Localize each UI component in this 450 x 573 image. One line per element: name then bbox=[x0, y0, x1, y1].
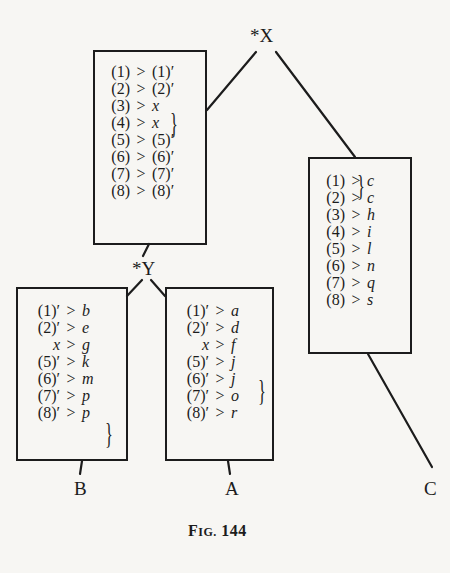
greater-than-symbol: > bbox=[209, 319, 231, 336]
greater-than-symbol: > bbox=[130, 114, 152, 131]
relation-row: (1)′>b bbox=[22, 302, 90, 319]
node-a-label: A bbox=[225, 479, 239, 499]
relation-lhs: (3) bbox=[100, 97, 130, 114]
relation-row: (1)>(1)′ bbox=[100, 63, 174, 80]
edge-box-b-to-b bbox=[80, 461, 82, 474]
relation-rhs: l bbox=[367, 240, 371, 257]
relation-rhs: f bbox=[231, 336, 235, 353]
brace-b-rows-7-8: } bbox=[105, 418, 113, 448]
relation-row: x>f bbox=[171, 336, 235, 353]
relation-lhs: (6) bbox=[100, 148, 130, 165]
relation-lhs: (6)′ bbox=[171, 370, 209, 387]
relation-rhs: j bbox=[231, 353, 235, 370]
greater-than-symbol: > bbox=[130, 131, 152, 148]
greater-than-symbol: > bbox=[209, 353, 231, 370]
relation-rhs: i bbox=[367, 223, 371, 240]
greater-than-symbol: > bbox=[60, 336, 82, 353]
relation-rhs: g bbox=[82, 336, 90, 353]
relation-row: (5)>l bbox=[315, 240, 371, 257]
relation-rhs: e bbox=[82, 319, 89, 336]
caption-number: 144 bbox=[221, 522, 247, 539]
brace-c-rows-1-2: } bbox=[357, 170, 365, 200]
greater-than-symbol: > bbox=[130, 182, 152, 199]
relation-lhs: (5) bbox=[100, 131, 130, 148]
relation-rhs: d bbox=[231, 319, 239, 336]
node-b-label: B bbox=[74, 479, 87, 499]
relation-lhs: (8) bbox=[315, 291, 345, 308]
relation-rhs: (1)′ bbox=[152, 63, 174, 80]
relation-row: (2)>(2)′ bbox=[100, 80, 174, 97]
greater-than-symbol: > bbox=[60, 353, 82, 370]
greater-than-symbol: > bbox=[209, 302, 231, 319]
caption-smallcaps: IG. bbox=[198, 525, 217, 539]
relation-lhs: (4) bbox=[315, 223, 345, 240]
relation-row: (5)′>k bbox=[22, 353, 89, 370]
relation-row: (2)>c bbox=[315, 189, 374, 206]
greater-than-symbol: > bbox=[209, 370, 231, 387]
greater-than-symbol: > bbox=[130, 165, 152, 182]
relation-lhs: (7)′ bbox=[171, 387, 209, 404]
edge-box-a-to-a bbox=[228, 461, 230, 474]
relation-lhs: (5) bbox=[315, 240, 345, 257]
greater-than-symbol: > bbox=[345, 223, 367, 240]
relation-rhs: b bbox=[82, 302, 90, 319]
relation-rhs: (2)′ bbox=[152, 80, 174, 97]
relation-row: (6)>(6)′ bbox=[100, 148, 174, 165]
edge-y-to-box-b bbox=[127, 280, 142, 296]
relation-row: (5)>(5)′ bbox=[100, 131, 174, 148]
relation-row: (8)′>r bbox=[171, 404, 237, 421]
relation-row: (2)′>d bbox=[171, 319, 239, 336]
relation-row: (6)′>j bbox=[171, 370, 235, 387]
relation-rhs: j bbox=[231, 370, 235, 387]
relation-row: (6)′>m bbox=[22, 370, 94, 387]
greater-than-symbol: > bbox=[130, 80, 152, 97]
relation-row: (7)>(7)′ bbox=[100, 165, 174, 182]
relation-row: x>g bbox=[22, 336, 90, 353]
relation-lhs: (8)′ bbox=[22, 404, 60, 421]
brace-top-rows-3-4: } bbox=[170, 108, 178, 138]
relation-rhs: r bbox=[231, 404, 237, 421]
edge-top-box-to-y bbox=[143, 244, 149, 256]
relation-lhs: (2) bbox=[100, 80, 130, 97]
relation-lhs: (1)′ bbox=[171, 302, 209, 319]
greater-than-symbol: > bbox=[345, 274, 367, 291]
greater-than-symbol: > bbox=[209, 387, 231, 404]
relation-lhs: (7) bbox=[100, 165, 130, 182]
relation-row: (1)′>a bbox=[171, 302, 239, 319]
relation-row: (8)′>p bbox=[22, 404, 90, 421]
relation-row: (7)′>o bbox=[171, 387, 239, 404]
relation-rhs: x bbox=[152, 97, 159, 114]
greater-than-symbol: > bbox=[60, 387, 82, 404]
relation-lhs: (1)′ bbox=[22, 302, 60, 319]
relation-rhs: s bbox=[367, 291, 373, 308]
relation-rhs: (6)′ bbox=[152, 148, 174, 165]
relation-row: (7)′>p bbox=[22, 387, 90, 404]
edge-box-c-to-c bbox=[368, 354, 432, 467]
relation-lhs: (1) bbox=[100, 63, 130, 80]
relation-lhs: x bbox=[171, 336, 209, 353]
relation-lhs: (7)′ bbox=[22, 387, 60, 404]
greater-than-symbol: > bbox=[60, 404, 82, 421]
greater-than-symbol: > bbox=[209, 404, 231, 421]
figure-caption: FIG. 144 bbox=[188, 522, 247, 540]
greater-than-symbol: > bbox=[345, 240, 367, 257]
relation-rhs: k bbox=[82, 353, 89, 370]
edge-y-to-box-a bbox=[151, 280, 165, 296]
relation-lhs: (6) bbox=[315, 257, 345, 274]
relation-rhs: p bbox=[82, 387, 90, 404]
relation-lhs: (7) bbox=[315, 274, 345, 291]
relation-lhs: (2) bbox=[315, 189, 345, 206]
relation-row: (2)′>e bbox=[22, 319, 89, 336]
relation-row: (8)>(8)′ bbox=[100, 182, 174, 199]
relation-rhs: c bbox=[367, 189, 374, 206]
caption-prefix: F bbox=[188, 522, 198, 539]
relation-rhs: q bbox=[367, 274, 375, 291]
greater-than-symbol: > bbox=[209, 336, 231, 353]
relation-row: (3)>h bbox=[315, 206, 375, 223]
relation-rhs: a bbox=[231, 302, 239, 319]
edge-x-to-box-c bbox=[276, 52, 355, 157]
relation-lhs: (1) bbox=[315, 172, 345, 189]
relation-row: (7)>q bbox=[315, 274, 375, 291]
relation-rhs: n bbox=[367, 257, 375, 274]
greater-than-symbol: > bbox=[60, 302, 82, 319]
